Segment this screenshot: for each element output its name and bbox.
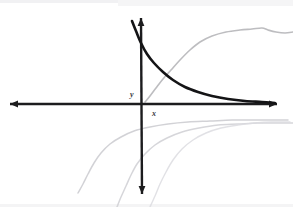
faint-background-curves: [78, 28, 293, 207]
graph-canvas: y x: [0, 0, 293, 207]
axes-group: [10, 18, 277, 194]
graph-plot-area: [0, 0, 293, 207]
y-axis-label: y: [130, 91, 134, 99]
faint-log-curve-middle: [117, 123, 293, 207]
faint-log-curve-outer: [78, 120, 288, 193]
y-axis-bottom-arrow-icon: [139, 186, 146, 194]
faint-sigmoid-curve: [145, 28, 293, 102]
x-axis-label: x: [152, 110, 156, 118]
y-axis-top-arrow-icon: [138, 18, 145, 26]
x-axis-left-arrow-icon: [10, 101, 18, 108]
faint-log-curve-inner: [150, 122, 290, 207]
